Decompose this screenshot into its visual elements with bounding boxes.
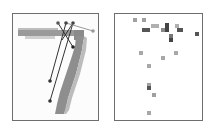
figure-overlay xyxy=(0,0,212,139)
pixel-cell xyxy=(152,93,156,97)
pixel-cell xyxy=(161,28,165,32)
pixel-cell xyxy=(177,28,183,32)
pixel-cell xyxy=(195,32,199,36)
graph-node xyxy=(71,45,75,49)
pixel-cell xyxy=(161,56,165,60)
pixel-cell xyxy=(147,86,151,90)
pixel-cells xyxy=(133,18,199,115)
graph-node xyxy=(91,29,95,33)
pixel-cell xyxy=(174,51,178,55)
graph-node xyxy=(56,21,60,25)
pixel-cell xyxy=(147,111,151,115)
pixel-cell xyxy=(139,51,143,55)
graph-node xyxy=(71,21,75,25)
pixel-cell xyxy=(165,23,169,32)
pixel-cell xyxy=(147,83,151,86)
pixel-cell xyxy=(169,38,173,42)
pixel-cell xyxy=(175,24,179,28)
pixel-cell xyxy=(133,18,137,22)
pixel-cell xyxy=(169,34,173,38)
pixel-cell xyxy=(151,24,159,28)
graph-node xyxy=(64,21,68,25)
pixel-cell xyxy=(147,64,151,68)
pixel-cell xyxy=(142,18,146,22)
graph-node xyxy=(48,79,52,83)
graph-node xyxy=(48,99,52,103)
pixel-cell xyxy=(142,28,150,32)
